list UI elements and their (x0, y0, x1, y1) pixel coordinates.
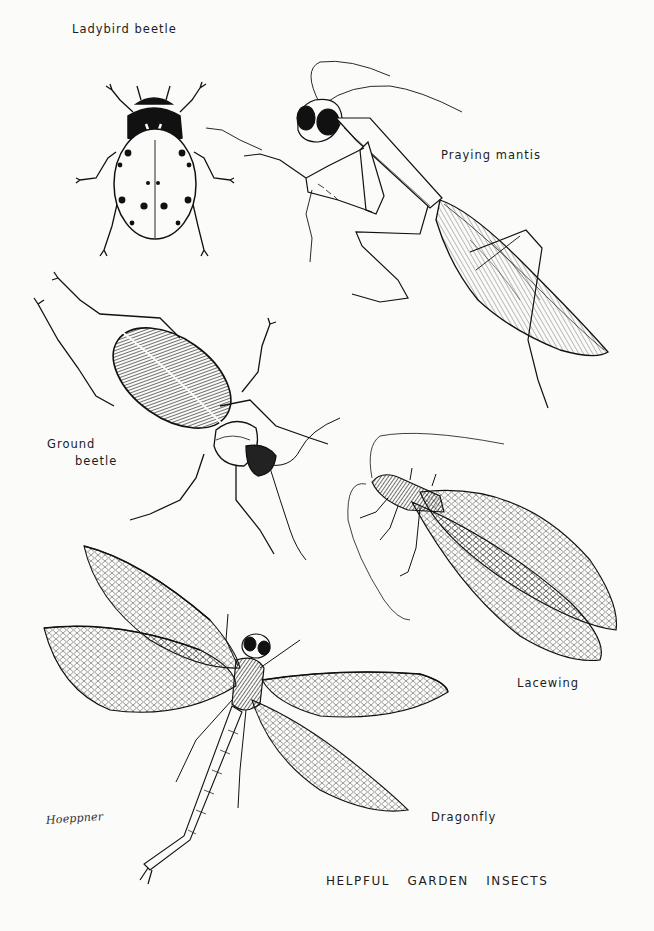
praying-mantis-drawing (206, 61, 608, 408)
ground-beetle-drawing (34, 272, 340, 560)
label-ground-beetle-line2: beetle (47, 453, 117, 470)
label-dragonfly: Dragonfly (431, 810, 496, 824)
illustration-plate: Ladybird beetle Praying mantis Ground be… (0, 0, 654, 931)
label-ladybird-beetle: Ladybird beetle (72, 22, 177, 36)
label-ground-beetle: Ground beetle (47, 436, 117, 470)
plate-title: HELPFUL GARDEN INSECTS (326, 874, 548, 888)
ladybird-beetle-drawing (76, 82, 234, 256)
label-ground-beetle-line1: Ground (47, 437, 95, 451)
label-praying-mantis: Praying mantis (441, 148, 541, 162)
dragonfly-drawing (44, 546, 448, 884)
lacewing-drawing (348, 433, 617, 660)
label-lacewing: Lacewing (517, 676, 579, 690)
